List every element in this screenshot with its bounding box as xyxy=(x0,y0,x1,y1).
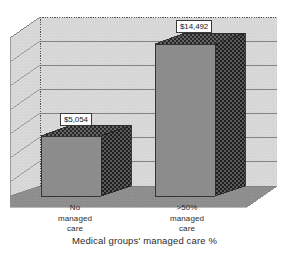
bar-front-face xyxy=(155,44,215,196)
bar-value-label-over-50-managed-care: $14,492 xyxy=(176,20,212,33)
bar-value-label-no-managed-care: $5,054 xyxy=(60,113,92,126)
bar-side-face xyxy=(101,125,131,196)
x-axis-category-label-over-50-managed-care: >50% managed care xyxy=(150,203,224,235)
bar-side-face xyxy=(215,33,245,196)
bar-front-face xyxy=(41,136,101,196)
left-wall xyxy=(10,17,40,196)
x-axis-title: Medical groups' managed care % xyxy=(0,235,289,247)
bar-no-managed-care[interactable] xyxy=(41,125,131,196)
bar-chart-3d: $5,054 $14,492 No managed care >50% mana… xyxy=(0,0,289,253)
bar-over-50-managed-care[interactable] xyxy=(155,33,245,196)
x-axis-category-label-no-managed-care: No managed care xyxy=(38,203,112,235)
